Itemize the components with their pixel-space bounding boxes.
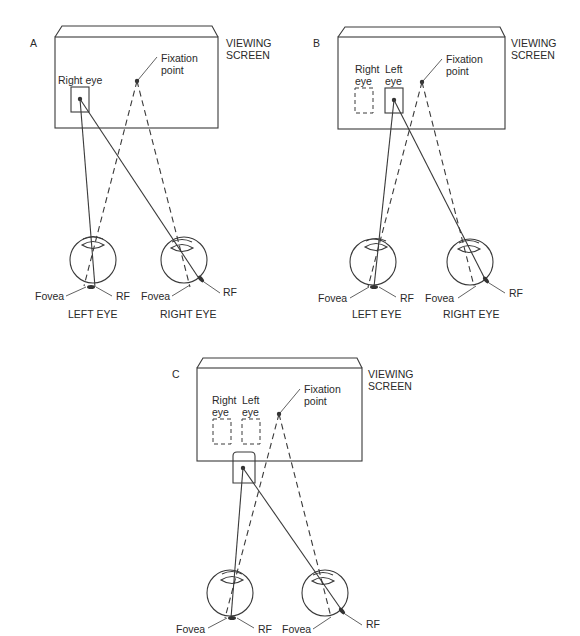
left-eye-box-label-2: eye <box>385 75 402 87</box>
fovea-label: Fovea <box>425 292 454 304</box>
right-eye-box-label: Right <box>212 394 237 406</box>
fovea-label: Fovea <box>176 623 205 635</box>
rf-label: RF <box>258 623 272 635</box>
left-eye-box-label-2: eye <box>242 406 259 418</box>
panel-letter: B <box>313 37 320 49</box>
panel-a: A VIEWING SCREEN Fixation point Right ey… <box>30 26 272 320</box>
fixation-label-2: point <box>304 395 327 407</box>
right-eye <box>302 570 362 629</box>
fovea-label: Fovea <box>35 290 64 302</box>
right-eye-label: RIGHT EYE <box>443 308 499 320</box>
right-eye-rf-box <box>355 88 373 113</box>
screen-label: SCREEN <box>511 49 555 61</box>
rf-label: RF <box>400 292 414 304</box>
rf-label: RF <box>116 290 130 302</box>
binocular-receptive-field-diagram: A VIEWING SCREEN Fixation point Right ey… <box>0 0 580 636</box>
panel-letter: C <box>172 368 180 380</box>
screen-label: SCREEN <box>368 380 412 392</box>
fovea-label: Fovea <box>318 292 347 304</box>
right-eye <box>447 239 505 298</box>
fovea-label: Fovea <box>141 290 170 302</box>
panel-b: B VIEWING SCREEN Fixation point Right ey… <box>313 27 557 320</box>
left-eye <box>66 237 116 297</box>
left-eye-label: LEFT EYE <box>68 308 117 320</box>
right-eye-label: RIGHT EYE <box>160 308 216 320</box>
panel-c: C VIEWING SCREEN Fixation point Right ey… <box>172 358 414 635</box>
left-eye-rf-box <box>242 419 260 444</box>
viewing-label: VIEWING <box>226 37 272 49</box>
fovea-label: Fovea <box>282 623 311 635</box>
right-eye-rf-box <box>213 419 231 444</box>
right-eye-box-label-2: eye <box>212 406 229 418</box>
right-eye-box-label: Right <box>355 63 380 75</box>
viewing-label: VIEWING <box>511 37 557 49</box>
fixation-label-2: point <box>446 65 469 77</box>
rf-label: RF <box>509 287 523 299</box>
fixation-label: Fixation <box>304 383 341 395</box>
fixation-label: Fixation <box>446 53 483 65</box>
left-eye-label: LEFT EYE <box>352 308 401 320</box>
left-eye-box-label: Left <box>385 63 403 75</box>
fixation-label: Fixation <box>161 52 198 64</box>
fixation-label-2: point <box>161 64 184 76</box>
right-eye-box-label-2: eye <box>355 75 372 87</box>
screen-label: SCREEN <box>226 49 270 61</box>
rf-label: RF <box>366 618 380 630</box>
rf-label: RF <box>223 286 237 298</box>
left-eye-box-label: Left <box>242 394 260 406</box>
panel-letter: A <box>30 37 37 49</box>
viewing-label: VIEWING <box>368 368 414 380</box>
right-eye-box-label: Right eye <box>58 74 103 86</box>
